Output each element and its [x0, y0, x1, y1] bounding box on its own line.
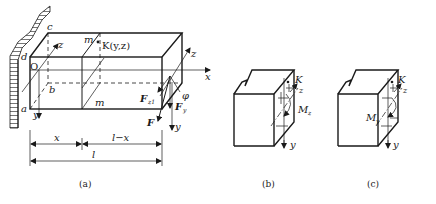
- point-k-c: [391, 81, 394, 84]
- caption-a: (a): [79, 179, 91, 189]
- figure-a: c d O a b z y m m K(y,z) x z y φ F F z1 …: [10, 6, 211, 189]
- label-moment-b-sub: z: [307, 109, 312, 116]
- dimension-lines: [30, 130, 162, 166]
- caption-b: (b): [262, 179, 275, 189]
- diagram-canvas: c d O a b z y m m K(y,z) x z y φ F F z1 …: [0, 0, 436, 204]
- caption-c: (c): [367, 179, 379, 189]
- label-x-axis: x: [205, 71, 211, 82]
- label-force-fz: F: [139, 93, 148, 104]
- point-k-marker: [97, 41, 100, 44]
- label-force-f: F: [146, 117, 155, 128]
- z-axis-right: [160, 48, 190, 96]
- end-load-system: [158, 48, 190, 130]
- moment-mz-arc: [284, 94, 291, 116]
- moment-my-arc: [388, 98, 396, 117]
- label-force-fy: F: [174, 101, 183, 112]
- label-phi: φ: [182, 90, 189, 101]
- label-y-left: y: [32, 109, 39, 120]
- label-m-top: m: [84, 34, 93, 45]
- label-k-c: K: [397, 74, 406, 85]
- label-force-fy-sub: y: [182, 106, 187, 114]
- label-y-right: y: [174, 121, 181, 132]
- label-z-left: z: [57, 39, 64, 50]
- label-y-b: y: [289, 139, 296, 150]
- dim-label-l-minus-x: l−x: [112, 132, 130, 143]
- point-k-b: [287, 81, 290, 84]
- dim-label-x: x: [54, 132, 60, 143]
- label-z-b: z: [298, 86, 304, 95]
- label-d: d: [21, 51, 27, 62]
- label-moment-c-sub: y: [375, 117, 380, 125]
- label-force-fz-sub: z1: [147, 98, 155, 105]
- figure-b: K z y M z (b): [234, 70, 312, 189]
- label-origin: O: [30, 61, 38, 72]
- label-y-c: y: [392, 139, 399, 150]
- label-z-c: z: [402, 86, 408, 95]
- label-b: b: [49, 84, 55, 95]
- cube-b-front: [234, 94, 274, 146]
- label-c: c: [47, 21, 53, 32]
- label-a: a: [21, 103, 27, 114]
- dim-label-l: l: [92, 149, 95, 160]
- label-z-right: z: [190, 48, 197, 59]
- label-k-b: K: [294, 74, 303, 85]
- label-point-k: K(y,z): [102, 40, 130, 51]
- figure-c: K z y M y (c): [338, 70, 408, 189]
- label-m-bottom: m: [95, 97, 104, 108]
